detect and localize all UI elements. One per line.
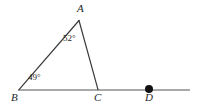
segment-ac-line (79, 21, 98, 90)
vertex-label-a: A (77, 3, 84, 14)
vertex-label-c: C (94, 92, 101, 103)
geometry-figure: A B C D 52° 49° (0, 0, 197, 110)
vertex-label-d: D (145, 92, 153, 103)
angle-label-at-b: 49° (28, 73, 41, 82)
vertex-label-b: B (11, 92, 18, 103)
angle-label-at-a: 52° (63, 34, 76, 43)
